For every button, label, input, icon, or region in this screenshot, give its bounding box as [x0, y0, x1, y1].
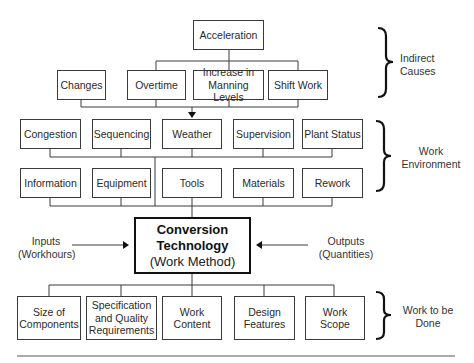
box-sequencing: Sequencing — [92, 119, 151, 149]
arrow-down-icon — [188, 112, 196, 118]
box-design-features: Design Features — [234, 296, 295, 340]
box-label: Changes — [60, 79, 102, 92]
brace-work-to-be-done — [376, 292, 391, 339]
center-title-line2: Technology — [157, 238, 229, 254]
box-label: Rework — [315, 177, 351, 190]
box-tools: Tools — [162, 168, 222, 198]
box-conversion-technology: Conversion Technology (Work Method) — [134, 217, 251, 274]
box-label: Materials — [242, 177, 285, 190]
inputs-line2: (Workhours) — [18, 248, 74, 261]
box-congestion: Congestion — [20, 119, 81, 149]
box-label: Work Scope — [318, 306, 352, 331]
box-label: Information — [24, 177, 77, 190]
box-label: Weather — [172, 128, 212, 141]
box-label: Supervision — [236, 128, 291, 141]
box-label: Congestion — [24, 128, 77, 141]
box-label: Shift Work — [274, 79, 322, 92]
box-label: Overtime — [135, 79, 178, 92]
box-overtime: Overtime — [127, 70, 186, 100]
label-indirect-causes: Indirect Causes — [400, 52, 450, 77]
box-label: Tools — [180, 177, 205, 190]
center-subtitle: (Work Method) — [150, 254, 236, 270]
arrow-right-icon — [123, 241, 129, 249]
box-label: Sequencing — [94, 128, 149, 141]
box-label: Design Features — [241, 306, 288, 331]
outputs-line1: Outputs — [318, 235, 374, 248]
box-information: Information — [20, 168, 81, 198]
brace-indirect-causes — [378, 28, 393, 97]
brace-work-environment — [376, 121, 391, 191]
outputs-line2: (Quantities) — [318, 248, 374, 261]
arrow-left-icon — [256, 241, 262, 249]
box-materials: Materials — [233, 168, 294, 198]
label-outputs: Outputs (Quantities) — [318, 235, 374, 260]
inputs-line1: Inputs — [18, 235, 74, 248]
box-plant-status: Plant Status — [302, 119, 363, 149]
box-label: Plant Status — [304, 128, 361, 141]
box-label: Acceleration — [200, 29, 258, 42]
label-inputs: Inputs (Workhours) — [18, 235, 74, 260]
box-weather: Weather — [162, 119, 222, 149]
center-title-line1: Conversion — [157, 222, 229, 238]
box-shift-work: Shift Work — [268, 70, 328, 100]
box-changes: Changes — [57, 70, 106, 100]
box-label: Specification and Quality Requirements — [89, 299, 154, 337]
box-equipment: Equipment — [92, 168, 151, 198]
label-work-environment: Work Environment — [400, 145, 462, 170]
box-size-of-components: Size of Components — [17, 296, 81, 340]
box-work-scope: Work Scope — [305, 296, 365, 340]
box-rework: Rework — [302, 168, 363, 198]
box-label: Size of Components — [19, 306, 79, 331]
box-supervision: Supervision — [233, 119, 294, 149]
box-label: Equipment — [96, 177, 146, 190]
box-specification-and-quality-requirements: Specification and Quality Requirements — [86, 296, 157, 340]
box-acceleration: Acceleration — [193, 20, 264, 50]
box-label: Work Content — [171, 306, 213, 331]
box-increase-in-manning-levels: Increase in Manning Levels — [193, 70, 264, 100]
box-label: Increase in Manning Levels — [196, 66, 261, 104]
box-work-content: Work Content — [162, 296, 222, 340]
label-work-to-be-done: Work to be Done — [398, 304, 458, 329]
